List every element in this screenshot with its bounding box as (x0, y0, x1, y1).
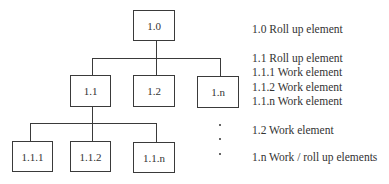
connector-1-1-down (92, 106, 93, 123)
connector-to-1-1 (92, 58, 93, 75)
node-label: 1.n (211, 86, 225, 98)
connector-to-1-n (220, 58, 221, 76)
ellipsis-bullet-icon (219, 153, 221, 155)
connector-to-1-1-2 (92, 123, 93, 141)
connector-root-down (156, 40, 157, 58)
legend-item-1-1-1: 1.1.1 Work element (252, 65, 342, 79)
node-label: 1.1.n (143, 152, 165, 164)
node-1-1-2: 1.1.2 (70, 141, 111, 172)
legend-item-1-1-2: 1.1.2 Work element (252, 80, 342, 94)
node-label: 1.2 (147, 85, 161, 97)
connector-to-1-1-n (156, 123, 157, 142)
node-label: 1.1.2 (80, 151, 102, 163)
legend-item-1-2: 1.2 Work element (252, 123, 334, 137)
ellipsis-bullet-icon (219, 138, 221, 140)
connector-to-1-1-1 (30, 123, 31, 141)
legend-item-1-n: 1.n Work / roll up elements (252, 150, 377, 164)
node-label: 1.1.1 (22, 151, 44, 163)
legend-item-1-1: 1.1 Roll up element (252, 51, 343, 65)
node-1-1-1: 1.1.1 (12, 141, 53, 172)
ellipsis-bullet-icon (219, 124, 221, 126)
node-label: 1.0 (147, 20, 161, 32)
legend-item-1-0: 1.0 Roll up element (252, 22, 343, 36)
node-1-1-n: 1.1.n (133, 142, 175, 173)
wbs-diagram: 1.0 1.1 1.2 1.n 1.1.1 1.1.2 1.1.n 1.0 Ro… (0, 0, 389, 184)
node-1-n: 1.n (197, 76, 239, 108)
connector-level2-horizontal (30, 123, 157, 124)
node-label: 1.1 (84, 85, 98, 97)
node-1-0: 1.0 (133, 10, 175, 41)
legend-item-1-1-n: 1.1.n Work element (252, 94, 342, 108)
node-1-1: 1.1 (70, 75, 111, 107)
node-1-2: 1.2 (133, 75, 175, 107)
connector-to-1-2 (156, 58, 157, 75)
